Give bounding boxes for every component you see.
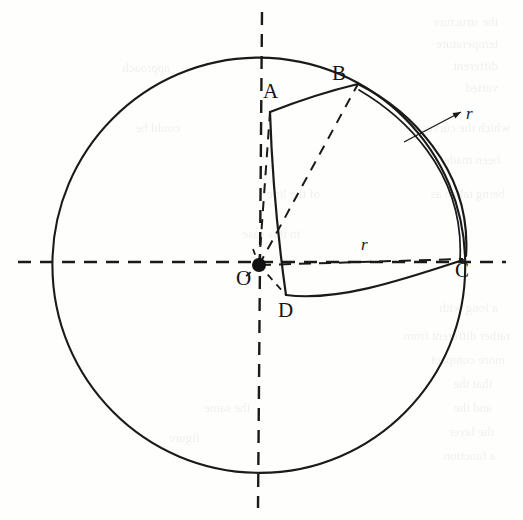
label-group: O A B C D r r: [236, 61, 473, 322]
geometry-diagram: O A B C D r r: [0, 0, 523, 520]
figure-container: the structuretemperaturedifferentvariedw…: [0, 0, 523, 520]
sector-edge-a-to-b: [270, 84, 358, 112]
label-point-d: D: [278, 298, 293, 322]
label-radius-outer: r: [466, 104, 473, 123]
construction-radii-group: [245, 84, 463, 295]
label-radius-inner: r: [361, 235, 368, 254]
sector-edge-a-to-d: [270, 112, 286, 295]
label-point-b: B: [332, 61, 346, 85]
radius-leader-arrowhead: [452, 112, 461, 119]
sector-arc-d-to-c: [286, 260, 463, 296]
label-point-a: A: [263, 79, 279, 103]
sphere-centre-dot: [252, 258, 266, 272]
label-point-c: C: [455, 258, 469, 282]
label-point-o: O: [236, 266, 251, 290]
sector-arc-b-to-c-outer: [358, 84, 466, 256]
